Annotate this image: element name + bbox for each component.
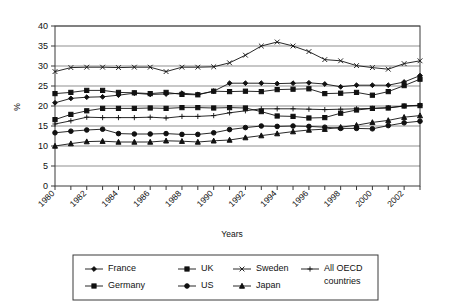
marker-triangle (68, 141, 73, 146)
marker-square (402, 84, 406, 88)
marker-plus (306, 107, 311, 112)
marker-square (148, 106, 152, 110)
xtick-label-1998: 1998 (322, 188, 343, 209)
marker-circle (100, 127, 105, 132)
marker-square (132, 91, 136, 95)
marker-plus (195, 114, 200, 119)
xtick-label-1996: 1996 (290, 188, 311, 209)
marker-plus (84, 115, 89, 120)
marker-diamond (53, 100, 58, 105)
marker-triangle (148, 139, 153, 144)
line-chart: 0510152025303540198019821984198619881990… (0, 0, 451, 308)
marker-square (69, 112, 73, 116)
marker-square (307, 116, 311, 120)
series-line (55, 121, 420, 134)
marker-square (53, 118, 57, 122)
marker-square (227, 106, 231, 110)
legend-label-germany: Germany (108, 280, 146, 290)
ytick-label-40: 40 (38, 21, 48, 31)
marker-square (259, 90, 263, 94)
legend-label-france: France (108, 263, 136, 273)
marker-square (85, 88, 89, 92)
marker-square (275, 114, 279, 118)
marker-square (132, 106, 136, 110)
marker-triangle (211, 138, 216, 143)
marker-diamond (243, 81, 248, 86)
xtick-label-2002: 2002 (385, 188, 406, 209)
marker-square (323, 116, 327, 120)
ytick-label-5: 5 (43, 161, 48, 171)
marker-square (323, 92, 327, 96)
marker-square (53, 92, 57, 96)
marker-square (180, 106, 184, 110)
xtick-label-1990: 1990 (195, 188, 216, 209)
x-axis: 1980198219841986198819901992199419961998… (36, 186, 420, 209)
series-line (55, 79, 420, 95)
legend-label-us: US (201, 280, 214, 290)
marker-square (116, 90, 120, 94)
marker-plus (132, 115, 137, 120)
series-germany (53, 77, 422, 97)
marker-triangle (164, 138, 169, 143)
marker-diamond (227, 81, 232, 86)
marker-square (196, 93, 200, 97)
marker-plus (116, 115, 121, 120)
marker-plus (148, 115, 153, 120)
marker-circle (386, 123, 391, 128)
marker-triangle (195, 139, 200, 144)
marker-circle (291, 124, 296, 129)
legend-label-sweden: Sweden (256, 263, 289, 273)
marker-triangle (291, 129, 296, 134)
marker-square (227, 90, 231, 94)
marker-circle (243, 125, 248, 130)
xtick-label-1994: 1994 (258, 188, 279, 209)
marker-square (275, 88, 279, 92)
marker-circle (402, 121, 407, 126)
marker-triangle (227, 137, 232, 142)
marker-square (101, 88, 105, 92)
xtick-label-1988: 1988 (163, 188, 184, 209)
marker-square (307, 87, 311, 91)
marker-circle (69, 129, 74, 134)
ytick-label-30: 30 (38, 61, 48, 71)
series-line (55, 76, 420, 103)
xtick-label-1986: 1986 (131, 188, 152, 209)
marker-triangle (370, 120, 375, 125)
marker-square (180, 92, 184, 96)
marker-square (164, 106, 168, 110)
x-axis-title: Years (221, 229, 242, 239)
marker-square (69, 90, 73, 94)
marker-diamond (354, 83, 359, 88)
marker-circle (132, 132, 137, 137)
marker-square (370, 93, 374, 97)
marker-square (339, 91, 343, 95)
marker-diamond (338, 84, 343, 89)
xtick-label-1982: 1982 (68, 188, 89, 209)
marker-circle (370, 127, 375, 132)
marker-plus (275, 106, 280, 111)
marker-square (196, 106, 200, 110)
xtick-label-2000: 2000 (353, 188, 374, 209)
marker-circle (418, 119, 423, 124)
marker-plus (211, 113, 216, 118)
ytick-label-35: 35 (38, 41, 48, 51)
marker-circle (196, 132, 201, 137)
marker-square (164, 90, 168, 94)
chart-canvas: 0510152025303540198019821984198619881990… (0, 0, 451, 308)
ytick-label-25: 25 (38, 81, 48, 91)
marker-diamond (307, 80, 312, 85)
marker-triangle (338, 125, 343, 130)
legend: FranceUKSwedenAll OECDcountriesGermanyUS… (73, 255, 378, 300)
series-us (53, 119, 423, 137)
marker-square (148, 92, 152, 96)
marker-circle (148, 132, 153, 137)
marker-circle (275, 124, 280, 129)
series-sweden (53, 40, 423, 74)
y-axis-title: % (12, 103, 22, 111)
marker-square (291, 114, 295, 118)
marker-diamond (100, 94, 105, 99)
marker-triangle (386, 118, 391, 123)
xtick-label-1980: 1980 (36, 188, 57, 209)
marker-square (212, 106, 216, 110)
marker-diamond (259, 81, 264, 86)
